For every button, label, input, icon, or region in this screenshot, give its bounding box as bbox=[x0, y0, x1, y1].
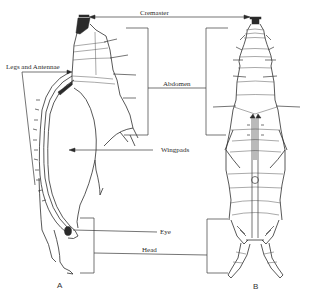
head-a bbox=[39, 178, 78, 274]
cremaster-a-icon bbox=[76, 15, 90, 34]
body-b-outline bbox=[226, 24, 285, 220]
label-eye: Eye bbox=[160, 228, 171, 236]
view-a-pupa-lateral bbox=[33, 15, 138, 274]
label-head: Head bbox=[142, 246, 157, 254]
mouthparts-b-icon bbox=[252, 177, 259, 184]
label-wingpads: Wingpads bbox=[161, 146, 189, 154]
view-b-pupa-ventral bbox=[213, 17, 300, 278]
label-legs-and-antennae: Legs and Antennae bbox=[6, 63, 60, 71]
label-abdomen: Abdomen bbox=[163, 80, 191, 88]
legs-antennae-sheath-a bbox=[33, 72, 74, 232]
view-label-a: A bbox=[57, 281, 63, 290]
head-b bbox=[228, 220, 283, 278]
cremaster-b-icon bbox=[250, 17, 261, 24]
segment-rings-a bbox=[72, 32, 115, 84]
annotation-lines bbox=[22, 15, 250, 273]
label-cremaster: Cremaster bbox=[140, 9, 169, 17]
eye-a-icon bbox=[65, 227, 72, 236]
wingpad-a-outline bbox=[74, 88, 138, 205]
legs-antennae-b bbox=[247, 114, 264, 238]
pupa-diagram: Cremaster Abdomen Legs and Antennae Wing… bbox=[0, 0, 310, 295]
view-label-b: B bbox=[253, 282, 258, 291]
spines-a bbox=[104, 39, 136, 98]
abdomen-a-outline bbox=[72, 24, 133, 128]
spines-b bbox=[213, 35, 300, 107]
segment-rings-b bbox=[228, 29, 283, 215]
